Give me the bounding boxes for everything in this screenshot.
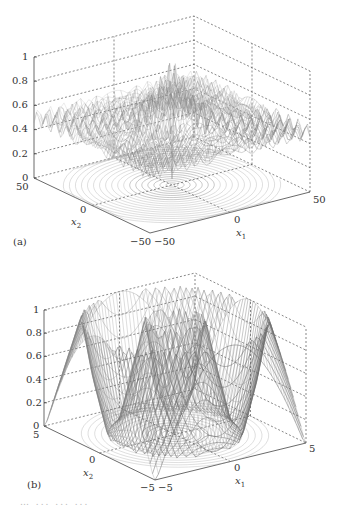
y-tick-front: −50 — [130, 237, 151, 247]
panel-label-b: (b) — [27, 479, 41, 490]
y-tick-mid: 0 — [80, 205, 86, 215]
surface-b-canvas — [0, 255, 339, 500]
panel-label-a: (a) — [13, 236, 27, 247]
z-tick-0-6: 0.6 — [12, 100, 28, 110]
figure-caption-fragment: … ... ... ... — [20, 497, 339, 506]
z-tick-0-4: 0.4 — [26, 375, 42, 385]
z-tick-0-8: 0.8 — [12, 76, 28, 86]
y-axis-label: x2 — [71, 217, 81, 230]
x-tick-right: 5 — [309, 444, 315, 454]
y-tick-mid: 0 — [89, 455, 95, 465]
z-tick-0-2: 0.2 — [26, 398, 42, 408]
y-tick-back: 5 — [33, 430, 39, 440]
x-tick-front: −5 — [158, 483, 173, 493]
y-axis-label: x2 — [83, 468, 93, 481]
surface-plot-a: 1 0.8 0.6 0.4 0.2 0 50 0 −50 −50 0 50 x2… — [0, 0, 339, 250]
z-tick-0-6: 0.6 — [26, 351, 42, 361]
x-axis-label: x1 — [236, 228, 246, 241]
surface-a-canvas — [0, 0, 339, 250]
z-tick-0-8: 0.8 — [26, 328, 42, 338]
z-tick-1: 1 — [33, 305, 39, 315]
x-tick-mid: 0 — [234, 215, 240, 225]
x-tick-front: −50 — [154, 237, 175, 247]
y-tick-front: −5 — [140, 483, 155, 493]
z-tick-1: 1 — [22, 52, 28, 62]
x-axis-label: x1 — [235, 476, 245, 489]
z-tick-0-2: 0.2 — [12, 149, 28, 159]
z-tick-0-4: 0.4 — [12, 124, 28, 134]
surface-plot-b: 1 0.8 0.6 0.4 0.2 0 5 0 −5 −5 0 5 x2 x1 … — [0, 255, 339, 500]
y-tick-back: 50 — [16, 182, 29, 192]
x-tick-right: 50 — [313, 195, 326, 205]
x-tick-mid: 0 — [234, 463, 240, 473]
